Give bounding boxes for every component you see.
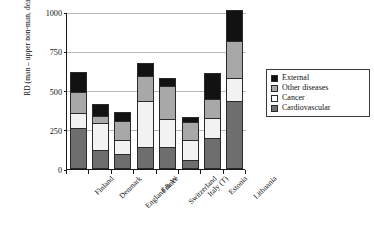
x-tick-label: Denmark [117,174,143,200]
bar-segment-external [71,73,86,93]
bar-slot [112,12,134,169]
bar-switzerland[interactable] [159,78,176,169]
bar-segment-cardio [205,139,220,168]
legend: ExternalOther diseasesCancerCardiovascul… [266,69,370,117]
bar-slot [179,12,201,169]
legend-swatch-cardio-icon [271,105,278,112]
bar-segment-cancer [138,102,153,148]
bar-finland[interactable] [70,72,87,169]
bar-estonia[interactable] [204,73,221,169]
legend-swatch-cancer-icon [271,95,278,102]
legend-swatch-external-icon [271,75,278,82]
bar-segment-cardio [138,148,153,168]
bar-england-w[interactable] [114,112,131,169]
bar-segment-other [138,77,153,102]
y-axis-label: RD (man – upper non-man, deaths per 100,… [23,0,32,103]
x-tick-label: France [159,174,180,195]
bar-segment-other [205,100,220,120]
bar-segment-other [227,42,242,79]
bar-france[interactable] [137,63,154,169]
bar-segment-cardio [93,151,108,168]
bar-segment-external [93,105,108,117]
bar-italy-t[interactable] [182,117,199,169]
bar-segment-cardio [183,161,198,168]
bar-slot [201,12,223,169]
x-tick-label: Estonia [227,174,249,196]
x-tick-label: Finland [93,174,116,197]
bar-denmark[interactable] [92,104,109,169]
bar-slot [134,12,156,169]
chart-root: RD (man – upper non-man, deaths per 100,… [0,0,374,236]
bar-segment-cancer [115,141,130,155]
legend-item-external[interactable]: External [271,73,365,83]
legend-item-cancer[interactable]: Cancer [271,93,365,103]
bar-segment-external [115,113,130,122]
bar-segment-other [71,93,86,113]
x-axis-labels: FinlandDenmarkEngland & WFranceSwitzerla… [66,174,245,236]
legend-label: External [282,73,309,83]
bar-lithuania[interactable] [226,10,243,169]
bar-segment-cancer [93,124,108,151]
legend-item-cardio[interactable]: Cardiovascular [271,103,365,113]
bar-segment-cardio [160,148,175,168]
bar-segment-external [138,64,153,77]
x-tick-label: Lithuania [251,174,278,201]
legend-label: Cancer [282,93,305,103]
bar-segment-cancer [227,79,242,102]
bar-segment-cancer [160,120,175,147]
bar-segment-other [183,123,198,141]
bar-slot [224,12,246,169]
plot-area: 02505007501000 [66,13,245,170]
bar-slot [157,12,179,169]
bar-group [67,12,246,169]
bar-segment-other [160,87,175,120]
bar-segment-other [93,117,108,124]
bar-segment-other [115,122,130,142]
legend-label: Cardiovascular [282,103,330,113]
bar-segment-cardio [71,129,86,168]
legend-item-other[interactable]: Other diseases [271,83,365,93]
bar-segment-cardio [115,155,130,168]
bar-slot [89,12,111,169]
legend-label: Other diseases [282,83,328,93]
bar-segment-cancer [183,141,198,161]
legend-swatch-other-icon [271,85,278,92]
bar-segment-external [160,79,175,88]
bar-segment-cancer [71,114,86,129]
bar-segment-external [227,11,242,42]
bar-slot [67,12,89,169]
bar-segment-external [205,74,220,100]
bar-segment-cardio [227,102,242,168]
x-tick-mark [245,170,246,174]
bar-segment-cancer [205,119,220,139]
